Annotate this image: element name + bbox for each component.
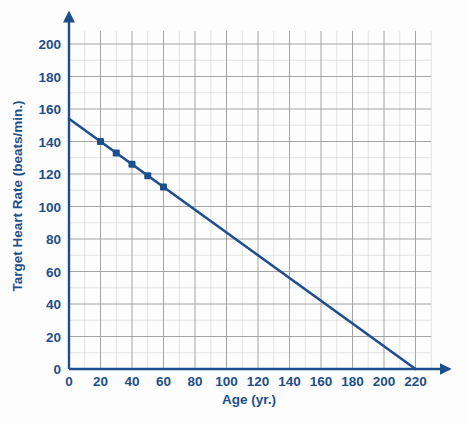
- grid-minor-lines: [69, 31, 431, 369]
- y-tick-label: 60: [46, 265, 61, 280]
- x-tick-labels: 020406080100120140160180200220: [65, 374, 427, 389]
- chart-container: 020406080100120140160180200220 020406080…: [0, 0, 470, 424]
- x-tick-label: 100: [215, 374, 238, 389]
- y-tick-labels: 020406080100120140160180200: [38, 37, 61, 377]
- y-tick-label: 160: [38, 102, 61, 117]
- x-tick-label: 40: [124, 374, 139, 389]
- axes: [69, 13, 449, 369]
- y-tick-label: 20: [46, 330, 61, 345]
- x-tick-label: 140: [278, 374, 301, 389]
- x-tick-label: 20: [93, 374, 108, 389]
- x-axis-title: Age (yr.): [222, 392, 276, 407]
- data-point-marker: [160, 184, 167, 191]
- y-tick-label: 180: [38, 70, 61, 85]
- x-tick-label: 60: [156, 374, 171, 389]
- y-tick-label: 140: [38, 135, 61, 150]
- data-point-marker: [113, 149, 120, 156]
- x-tick-label: 200: [373, 374, 396, 389]
- x-tick-label: 160: [310, 374, 333, 389]
- y-tick-label: 100: [38, 200, 61, 215]
- y-tick-label: 40: [46, 297, 61, 312]
- x-tick-label: 180: [341, 374, 364, 389]
- y-tick-label: 120: [38, 167, 61, 182]
- y-tick-label: 200: [38, 37, 61, 52]
- y-tick-label: 80: [46, 232, 61, 247]
- x-tick-label: 220: [404, 374, 427, 389]
- y-tick-label: 0: [53, 362, 61, 377]
- target-heart-rate-chart: 020406080100120140160180200220 020406080…: [0, 0, 470, 424]
- y-axis-title: Target Heart Rate (beats/min.): [10, 100, 25, 291]
- x-tick-label: 120: [247, 374, 270, 389]
- data-point-marker: [97, 138, 104, 145]
- data-point-marker: [129, 161, 136, 168]
- grid-major-lines: [69, 31, 431, 369]
- data-point-marker: [144, 172, 151, 179]
- x-tick-label: 0: [65, 374, 73, 389]
- x-tick-label: 80: [187, 374, 202, 389]
